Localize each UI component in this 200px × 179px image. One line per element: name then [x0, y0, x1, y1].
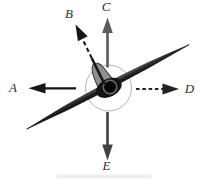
propeller-spinner: [105, 82, 115, 92]
arrow-c-head: [102, 18, 113, 34]
figure-canvas: A B C D E: [0, 0, 200, 179]
airplane: [14, 21, 194, 137]
arrow-d: [136, 84, 179, 95]
label-b: B: [65, 6, 73, 21]
label-e: E: [102, 158, 111, 173]
arrow-b-head: [76, 25, 88, 42]
arrow-a-head: [29, 83, 46, 94]
arrow-c: [102, 18, 113, 68]
arrow-a: [29, 83, 77, 94]
airplane-force-diagram: A B C D E: [0, 0, 200, 179]
arrow-b-shaft-dashed: [82, 39, 92, 59]
label-a: A: [8, 80, 17, 95]
label-c: C: [102, 0, 111, 14]
cropped-text-remnant: [56, 175, 152, 178]
label-d: D: [184, 81, 195, 96]
arrow-d-head: [163, 84, 180, 95]
arrow-e: [102, 112, 113, 161]
